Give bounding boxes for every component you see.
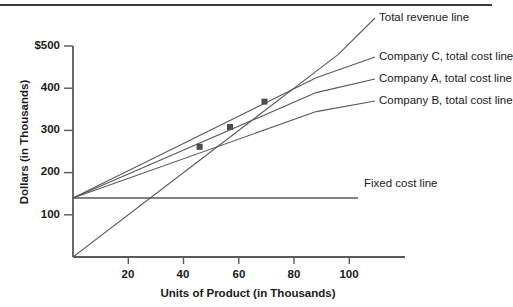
leader-line-company-c [316, 57, 375, 78]
breakeven-marker-company-b [197, 144, 203, 150]
leader-line-company-b [316, 101, 375, 112]
y-axis-title: Dollars (in Thousands) [18, 62, 30, 222]
x-axis-title: Units of Product (in Thousands) [148, 287, 348, 299]
y-tick-label-400: 400 [0, 81, 60, 93]
annotation-company-b-cost-line: Company B, total cost line [379, 94, 513, 106]
breakeven-marker-company-a [227, 124, 233, 130]
y-tick-label-300: 300 [0, 123, 60, 135]
x-tick-label-80: 80 [274, 268, 314, 280]
annotation-total-revenue-line: Total revenue line [379, 11, 469, 23]
x-tick-label-40: 40 [163, 268, 203, 280]
y-tick-label-500: $500 [0, 39, 60, 51]
breakeven-markers [197, 99, 268, 150]
annotation-fixed-cost-line: Fixed cost line [364, 177, 438, 189]
series-line-company-c [73, 78, 316, 198]
x-axis-ticks [128, 257, 349, 264]
y-axis-ticks [64, 46, 73, 215]
x-tick-label-100: 100 [329, 268, 369, 280]
x-tick-label-20: 20 [108, 268, 148, 280]
annotation-company-c-cost-line: Company C, total cost line [379, 50, 513, 62]
y-tick-label-200: 200 [0, 165, 60, 177]
series-line-company-a [73, 93, 316, 198]
leader-line-total-revenue [338, 18, 375, 54]
series-line-total-revenue [73, 54, 338, 257]
annotation-company-a-cost-line: Company A, total cost line [379, 72, 512, 84]
series-line-company-b [73, 112, 316, 198]
x-tick-label-60: 60 [219, 268, 259, 280]
leader-line-company-a [316, 79, 375, 93]
y-tick-label-100: 100 [0, 208, 60, 220]
breakeven-marker-company-c [262, 99, 268, 105]
